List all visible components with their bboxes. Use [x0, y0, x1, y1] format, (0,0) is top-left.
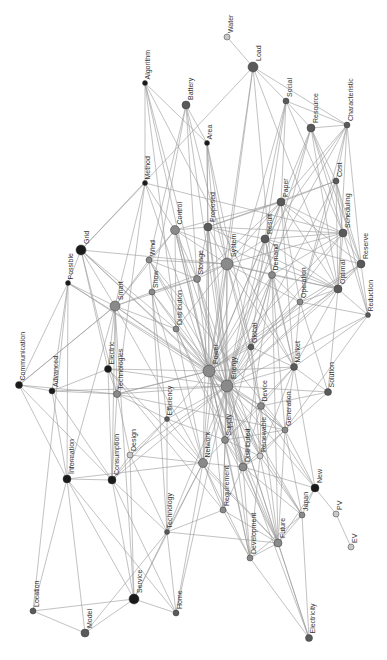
edge-electric-consumption [108, 369, 112, 480]
edge-design-network [130, 455, 203, 463]
node-development [247, 555, 253, 561]
node-label-method: Method [144, 156, 151, 179]
node-label-consumption: Consumption [113, 434, 121, 475]
node-label-load: Load [255, 45, 262, 61]
node-label-future: Future [279, 518, 286, 538]
node-label-energy: Energy [230, 356, 238, 379]
edge-algorithm-area [145, 83, 207, 143]
edge-grid-electric [81, 250, 108, 369]
node-consumption [108, 476, 116, 484]
node-label-model: Model [86, 608, 93, 628]
node-market [291, 364, 298, 371]
node-label-ev: EV [351, 533, 358, 543]
edge-location-possible [33, 283, 68, 611]
node-label-new: New [316, 468, 323, 483]
node-label-battery: Battery [187, 77, 195, 100]
edge-communication-information [19, 385, 67, 479]
edge-smart-network [115, 306, 203, 463]
node-label-water: Water [227, 14, 234, 33]
edge-service-home [134, 599, 176, 613]
node-system [221, 258, 233, 270]
node-cost [333, 178, 339, 184]
node-show [149, 289, 155, 295]
node-label-algorithm: Algorithm [144, 50, 152, 80]
node-distribution [173, 326, 179, 332]
node-scheduling [339, 229, 347, 237]
edge-distributed-new [243, 467, 315, 488]
node-label-technology: Technology [166, 493, 174, 529]
edge-load-optimal [253, 67, 338, 289]
edge-social-resource [286, 101, 311, 128]
node-label-renewable: Renewable [260, 417, 267, 452]
node-resource [307, 124, 315, 132]
node-supply [222, 437, 229, 444]
node-control [171, 226, 180, 235]
edge-market-solution [294, 367, 328, 392]
node-technologies [114, 391, 121, 398]
node-label-paper: Paper [282, 178, 290, 197]
node-label-reduction: Reduction [367, 280, 374, 312]
node-label-design: Design [130, 429, 138, 451]
edge-proposed-result [208, 227, 265, 239]
node-location [30, 608, 36, 614]
edge-new-pv [315, 488, 336, 514]
edge-method-grid [81, 183, 145, 250]
node-label-global: Global [251, 322, 258, 343]
edge-communication-consumption [19, 385, 112, 480]
node-label-wind: Wind [149, 240, 156, 256]
node-optimal [334, 285, 342, 293]
edge-show-efficiency [152, 292, 167, 419]
node-label-demand: Demand [272, 244, 279, 271]
node-label-characteristic: Characteristic [347, 78, 354, 121]
node-power [203, 365, 215, 377]
node-label-pv: PV [336, 500, 343, 510]
edge-technologies-advanced [52, 391, 117, 394]
node-demand [269, 272, 276, 279]
node-new [311, 484, 319, 492]
node-label-electric: Electric [108, 341, 115, 364]
node-service [129, 594, 139, 604]
edge-optimal-power [209, 289, 338, 371]
node-label-electricity: Electricity [309, 603, 317, 633]
node-wind [146, 257, 152, 263]
node-technology [165, 530, 170, 535]
node-solution [325, 389, 332, 396]
node-ev [348, 544, 354, 550]
node-electricity [306, 635, 313, 642]
node-device [258, 403, 265, 410]
edge-pv-ev [336, 514, 351, 547]
edge-network-future [203, 463, 278, 543]
edge-battery-storage [186, 105, 197, 279]
node-information [63, 475, 71, 483]
node-electric [105, 366, 112, 373]
edge-smart-distribution [115, 306, 176, 329]
edge-battery-show [152, 105, 186, 292]
edge-resource-characteristic [311, 125, 347, 128]
node-label-result: Result [266, 214, 273, 234]
node-possible [66, 281, 71, 286]
node-battery [182, 101, 190, 109]
edge-design-service [130, 455, 134, 599]
node-distributed [239, 463, 247, 471]
edge-layer [19, 37, 368, 638]
edge-battery-wind [149, 105, 186, 260]
node-network [199, 459, 208, 468]
edge-requirement-development [223, 510, 250, 558]
edge-proposed-power [208, 227, 209, 371]
node-load [248, 62, 258, 72]
node-label-technologies: Technologies [117, 348, 125, 389]
edge-distributed-japan [243, 467, 302, 515]
node-label-area: Area [206, 125, 213, 140]
edge-network-requirement [203, 463, 223, 510]
node-social [283, 98, 289, 104]
node-water [224, 34, 230, 40]
node-label-communication: Communication [19, 332, 26, 381]
node-energy [221, 380, 233, 392]
node-label-device: Device [261, 380, 268, 402]
node-global [248, 344, 254, 350]
node-label-distributed: Distributed [244, 428, 251, 462]
node-paper [277, 198, 285, 206]
edge-paper-scheduling [281, 202, 343, 233]
node-label-requirement: Requirement [223, 466, 231, 506]
node-requirement [220, 507, 226, 513]
